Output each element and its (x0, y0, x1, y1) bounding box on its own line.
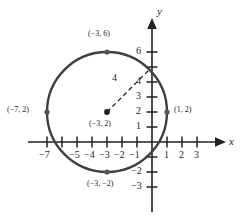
x-tick-label-2: 2 (179, 150, 184, 160)
y-tick-label-4: 4 (136, 76, 141, 86)
x-axis-arrow-icon (215, 137, 226, 147)
radius-length-label: 4 (112, 73, 117, 83)
x-tick-label-1: 1 (164, 150, 169, 160)
y-tick-label-3: 3 (136, 91, 141, 101)
point-marker-right (164, 109, 169, 114)
plot-canvas (0, 0, 242, 222)
point-label-top: (−3, 6) (88, 30, 110, 38)
y-tick-label-neg2: −2 (131, 166, 142, 176)
x-tick-label-neg5: −5 (69, 150, 80, 160)
x-tick-label-neg2: −2 (114, 150, 125, 160)
x-tick-label-neg1: −1 (129, 150, 140, 160)
y-axis-label: y (157, 6, 162, 17)
x-tick-label-neg7: −7 (39, 150, 50, 160)
point-marker-center (104, 109, 110, 115)
x-tick-label-neg3: −3 (99, 150, 110, 160)
y-tick-label-6: 6 (136, 46, 141, 56)
point-marker-top (104, 49, 109, 54)
y-axis-arrow-icon (147, 18, 157, 29)
point-marker-bottom (104, 169, 109, 174)
point-label-right: (1, 2) (174, 106, 191, 114)
x-tick-label-3: 3 (194, 150, 199, 160)
point-label-bottom: (−3, −2) (87, 180, 113, 188)
x-axis-label: x (229, 136, 234, 147)
point-label-center: (−3, 2) (89, 120, 111, 128)
x-tick-label-neg4: −4 (84, 150, 95, 160)
y-tick-label-neg3: −3 (131, 181, 142, 191)
circle-graph-figure: x y −7 −5 −4 −3 −2 −1 1 2 3 6 4 3 2 1 −2… (0, 0, 242, 222)
point-marker-left (44, 109, 49, 114)
y-tick-label-1: 1 (136, 121, 141, 131)
point-label-left: (−7, 2) (7, 106, 29, 114)
y-tick-label-2: 2 (136, 106, 141, 116)
